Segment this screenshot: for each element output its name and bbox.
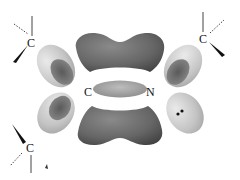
lone-pair-dot-1 (176, 112, 179, 115)
orbital-diagram: C C C C N (0, 0, 240, 180)
pi-lobe-bottom (78, 106, 163, 145)
nitrogen-center-label: N (146, 85, 155, 99)
substituent-bottom-left: C (10, 124, 34, 173)
carbon-center-label: C (84, 85, 92, 99)
substituent-top-right: C (199, 12, 225, 57)
lone-pair-lobe (158, 85, 211, 141)
atom-label: C (26, 141, 34, 155)
pi-lobe-top (76, 33, 165, 72)
lobe-top-left (29, 37, 83, 94)
substituent-top-left: C (13, 16, 35, 63)
atom-label: C (199, 32, 207, 46)
lone-pair-dot-2 (180, 109, 183, 112)
sigma-lobe (93, 81, 147, 98)
lobe-bottom-left (29, 85, 82, 141)
atom-label: C (27, 36, 35, 50)
small-mark (45, 164, 48, 169)
